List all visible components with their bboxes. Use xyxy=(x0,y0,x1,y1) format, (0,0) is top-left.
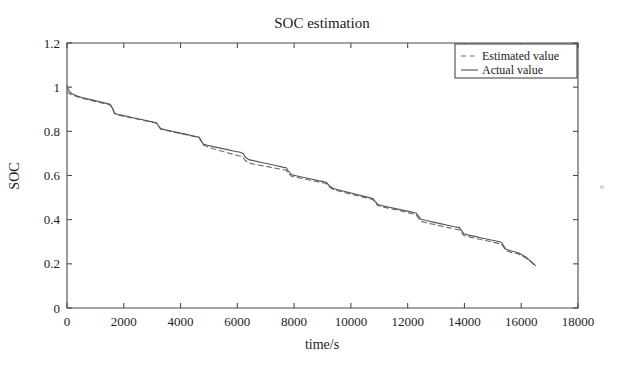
x-tick-label: 16000 xyxy=(505,314,538,329)
chart-canvas: SOC estimation 0200040006000800010000120… xyxy=(0,0,624,365)
legend-label-estimated-value: Estimated value xyxy=(482,49,559,63)
x-tick-label: 18000 xyxy=(562,314,595,329)
chart-legend[interactable]: Estimated value Actual value xyxy=(455,44,577,78)
legend-label-actual-value: Actual value xyxy=(482,63,543,77)
x-tick-label: 12000 xyxy=(391,314,424,329)
x-tick-label: 0 xyxy=(64,314,71,329)
y-tick-label: 1.2 xyxy=(44,36,60,51)
soc-estimation-figure: SOC estimation 0200040006000800010000120… xyxy=(0,0,624,365)
y-tick-label: 0.6 xyxy=(44,168,61,183)
x-tick-label: 6000 xyxy=(224,314,250,329)
x-tick-label: 10000 xyxy=(335,314,368,329)
y-tick-label: 0.2 xyxy=(44,256,60,271)
x-tick-label: 2000 xyxy=(111,314,137,329)
y-tick-label: 0 xyxy=(54,301,61,316)
y-tick-label: 1 xyxy=(54,80,61,95)
y-tick-label: 0.4 xyxy=(44,212,61,227)
y-tick-label: 0.8 xyxy=(44,124,60,139)
x-tick-label: 8000 xyxy=(281,314,307,329)
x-tick-label: 14000 xyxy=(448,314,481,329)
scan-artifact-speck xyxy=(600,185,604,189)
x-axis-title: time/s xyxy=(305,337,339,352)
x-tick-label: 4000 xyxy=(168,314,194,329)
y-axis-title: SOC xyxy=(7,162,22,189)
chart-title: SOC estimation xyxy=(274,15,370,31)
